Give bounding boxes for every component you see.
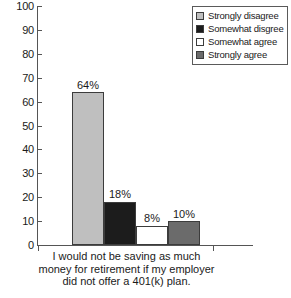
- y-tick-label: 40: [0, 144, 34, 155]
- bar-value-label: 64%: [65, 80, 111, 91]
- x-axis-caption-line: did not offer a 401(k) plan.: [14, 275, 239, 288]
- legend-swatch-icon: [196, 38, 204, 46]
- legend-swatch-icon: [196, 25, 204, 33]
- bar-value-label: 10%: [161, 209, 207, 220]
- bar-chart: 100 90 80 70 60 50 40 30 20 10 0 64% 18%: [0, 0, 291, 298]
- bar-somewhat-agree: [136, 226, 168, 245]
- legend-swatch-icon: [196, 51, 204, 59]
- y-tick-label: 50: [0, 120, 34, 131]
- y-tick-label: 100: [0, 1, 34, 12]
- x-axis-caption: I would not be saving as much money for …: [14, 250, 239, 288]
- y-axis-tick-labels: 100 90 80 70 60 50 40 30 20 10 0: [0, 6, 34, 244]
- y-tick-label: 30: [0, 168, 34, 179]
- y-tick-label: 10: [0, 216, 34, 227]
- bar-strongly-disagree: [72, 92, 104, 245]
- legend-item-strongly-agree: Strongly agree: [196, 49, 284, 61]
- legend-item-strongly-disagree: Strongly disagree: [196, 10, 284, 22]
- legend-label: Somewhat disgree: [208, 24, 283, 34]
- legend-item-somewhat-disagree: Somewhat disgree: [196, 23, 284, 35]
- y-tick-label: 80: [0, 48, 34, 59]
- y-tick-label: 60: [0, 96, 34, 107]
- y-tick-label: 90: [0, 24, 34, 35]
- legend-label: Somewhat agree: [208, 37, 277, 47]
- bar-strongly-agree: [168, 221, 200, 245]
- legend-label: Strongly agree: [208, 50, 267, 60]
- legend-item-somewhat-agree: Somewhat agree: [196, 36, 284, 48]
- y-tick-label: 0: [0, 240, 34, 251]
- x-axis-caption-line: money for retirement if my employer: [14, 263, 239, 276]
- y-tick-label: 20: [0, 192, 34, 203]
- legend-swatch-icon: [196, 12, 204, 20]
- legend-label: Strongly disagree: [208, 11, 279, 21]
- bar-value-label: 18%: [97, 189, 143, 200]
- y-tick-label: 70: [0, 72, 34, 83]
- legend: Strongly disagree Somewhat disgree Somew…: [192, 6, 288, 65]
- x-axis-caption-line: I would not be saving as much: [14, 250, 239, 263]
- x-axis-line: [38, 245, 253, 246]
